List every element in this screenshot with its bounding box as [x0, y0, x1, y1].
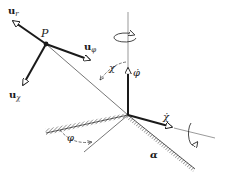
label-u-phi: uφ: [84, 41, 96, 54]
phi-angle-arc: [60, 130, 92, 143]
label-chi: χ: [108, 62, 116, 73]
label-phi: φ: [67, 132, 74, 143]
rotation-diagram: P ur uφ uχ χ φ α φ̇ χ̇: [0, 0, 229, 186]
rotation-arrow-chi-icon: [188, 123, 196, 146]
radius-line: [46, 44, 128, 115]
point-p: [44, 42, 49, 47]
rotation-arrow-phi-icon: [114, 33, 136, 42]
label-chi-dot: χ̇: [162, 111, 170, 122]
label-phi-dot: φ̇: [133, 67, 140, 78]
unit-vectors: [13, 21, 90, 85]
label-u-r: ur: [8, 5, 19, 18]
label-u-chi: uχ: [9, 89, 21, 102]
label-p: P: [40, 27, 49, 40]
chi-axis: [128, 115, 215, 146]
vertical-axis: [114, 12, 136, 115]
label-alpha: α: [150, 149, 158, 160]
u-chi-vector: [23, 44, 46, 85]
